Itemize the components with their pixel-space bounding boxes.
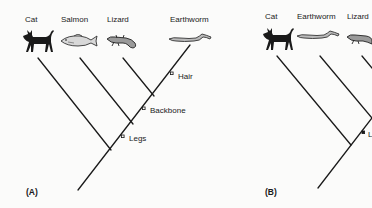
- fish-icon: [60, 34, 98, 48]
- branch-lizard-b: [362, 56, 372, 68]
- trunk-a: [78, 45, 190, 190]
- lizard-icon-b: [346, 32, 372, 46]
- worm-icon-b: [296, 30, 340, 40]
- cat-silhouette-icon: [20, 28, 56, 54]
- trait-marker-legs-b: [362, 131, 365, 134]
- branch-earthworm-b: [320, 56, 372, 118]
- cat-silhouette-icon-b: [260, 26, 296, 52]
- branch-cat-b: [277, 56, 351, 145]
- branch-lizard-a: [123, 58, 154, 96]
- branch-cat-a: [38, 58, 111, 150]
- lizard-icon: [106, 34, 138, 50]
- trait-marker-backbone: [143, 107, 146, 110]
- worm-icon: [168, 33, 212, 43]
- trait-marker-hair: [171, 72, 174, 75]
- trait-marker-legs: [122, 135, 125, 138]
- branch-salmon-a: [80, 58, 133, 124]
- trunk-b: [318, 118, 372, 188]
